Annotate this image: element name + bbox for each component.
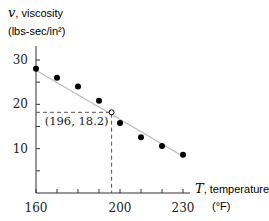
x-tick-label: 160 [25,201,48,215]
data-point [159,143,165,149]
annotation-label: (196, 18.2) [45,114,109,128]
y-tick-label: 10 [13,142,28,156]
y-tick-label: 20 [13,97,28,111]
data-point [33,66,39,72]
y-axis-label: v, viscosity [8,5,64,20]
annotation-point [109,110,114,115]
data-point [138,134,144,140]
plot-area: (196, 18.2) [33,46,190,193]
x-axis-label: T, temperature [195,181,269,196]
x-axis-unit: (°F) [212,200,230,212]
tick-labels: 102030160200230 [13,53,195,215]
data-point [54,75,60,81]
chart-canvas: v, viscosity (lbs-sec/in²) T, temperatur… [0,0,269,221]
y-axis-unit: (lbs-sec/in²) [8,25,65,37]
y-tick-label: 30 [13,53,28,67]
x-tick-label: 230 [172,201,195,215]
data-point [117,120,123,126]
data-point [180,152,186,158]
x-tick-label: 200 [109,201,132,215]
data-point [96,98,102,104]
data-point [75,84,81,90]
